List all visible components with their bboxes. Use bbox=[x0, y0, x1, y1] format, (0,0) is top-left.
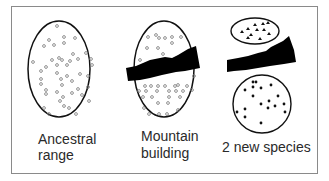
label-mountain-line1: Mountain bbox=[141, 128, 199, 144]
label-ancestral-line2: range bbox=[38, 147, 74, 163]
panel-mountain-building bbox=[126, 21, 200, 117]
mountain-barrier bbox=[227, 36, 296, 72]
mountain-barrier bbox=[126, 46, 200, 81]
speciation-diagram: Ancestral range Mountain building 2 new … bbox=[0, 0, 329, 181]
panel-ancestral-range bbox=[28, 21, 93, 117]
species-a-triangle-individuals bbox=[240, 21, 271, 40]
species-b-filled-dot-individuals bbox=[236, 81, 287, 125]
label-ancestral-line1: Ancestral bbox=[38, 131, 96, 147]
open-circle-individuals bbox=[32, 25, 94, 116]
label-new-species: 2 new species bbox=[222, 139, 311, 155]
label-mountain-line2: building bbox=[141, 145, 189, 161]
panel-two-new-species bbox=[227, 18, 296, 133]
range-ellipse bbox=[28, 21, 90, 117]
